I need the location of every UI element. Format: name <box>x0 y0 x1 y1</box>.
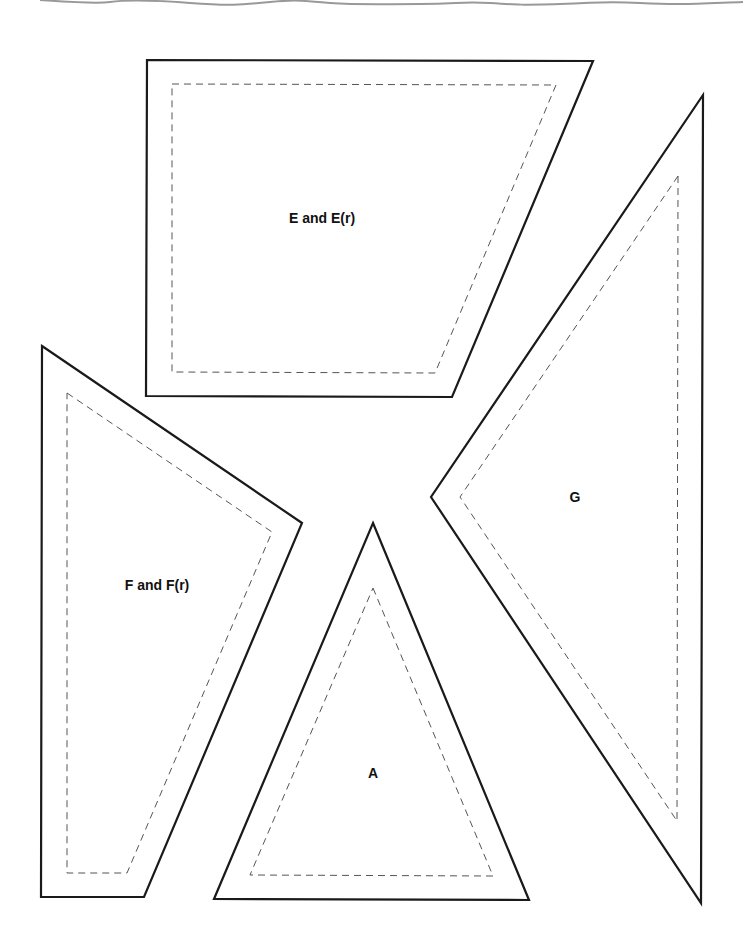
cut-line-e <box>146 60 593 397</box>
piece-label-e: E and E(r) <box>289 210 355 226</box>
template-canvas <box>0 0 743 945</box>
piece-e <box>146 60 593 397</box>
piece-label-a: A <box>368 765 378 781</box>
torn-edge <box>40 0 743 5</box>
piece-label-g: G <box>570 489 581 505</box>
piece-label-f: F and F(r) <box>125 577 190 593</box>
